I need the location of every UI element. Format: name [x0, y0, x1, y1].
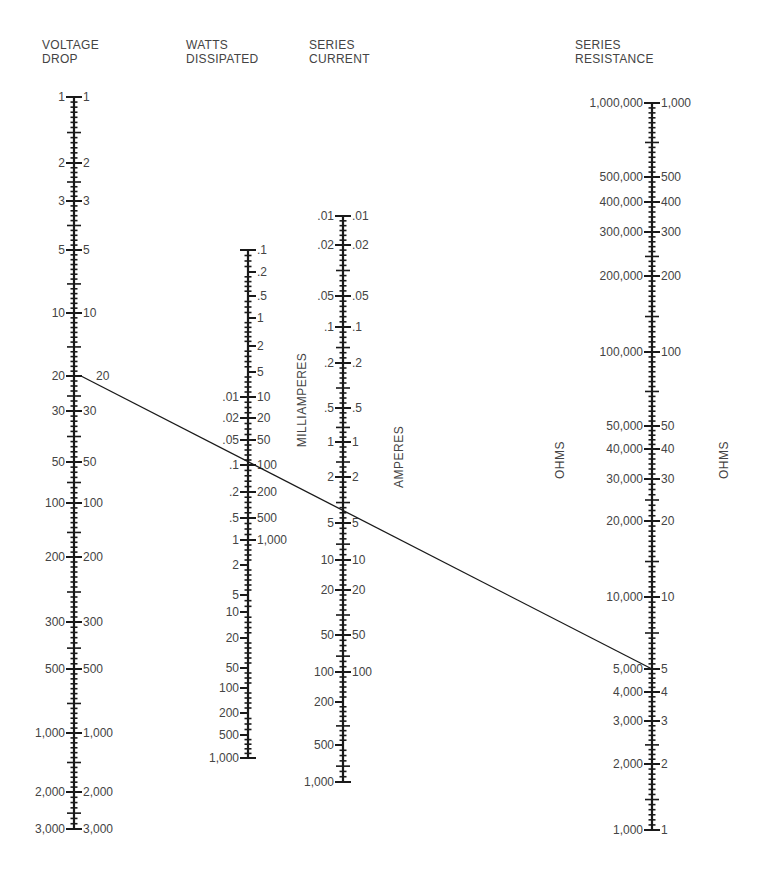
tick-label: .01	[352, 209, 369, 223]
tick-label: 50	[321, 628, 335, 642]
tick-label: 100	[45, 496, 65, 510]
tick-label: 30	[83, 404, 97, 418]
tick-label: 1	[352, 435, 359, 449]
tick-label: 20	[352, 583, 366, 597]
tick-label: 10,000	[606, 590, 643, 604]
tick-label: 2	[327, 470, 334, 484]
tick-label: .5	[352, 401, 362, 415]
tick-label: 5	[58, 243, 65, 257]
tick-label: 50	[661, 419, 675, 433]
tick-label: 100	[257, 458, 277, 472]
tick-label: 3	[58, 194, 65, 208]
tick-label: 20	[661, 514, 675, 528]
tick-label: .5	[257, 289, 267, 303]
tick-label: 10	[321, 553, 335, 567]
tick-label: 100	[661, 345, 681, 359]
tick-label: 50	[257, 433, 271, 447]
tick-label: .02	[222, 411, 239, 425]
tick-label: 10	[661, 590, 675, 604]
tick-label: .05	[352, 289, 369, 303]
tick-label: 200	[314, 695, 334, 709]
tick-label: 20	[96, 369, 110, 383]
tick-label: 1,000	[83, 726, 113, 740]
tick-label: 1	[232, 533, 239, 547]
tick-label: 500	[219, 728, 239, 742]
tick-label: 1	[257, 311, 264, 325]
tick-label: 100	[352, 665, 372, 679]
tick-label: 100,000	[600, 345, 644, 359]
tick-label: .2	[324, 356, 334, 370]
tick-label: .01	[222, 390, 239, 404]
example-index-line	[81, 376, 652, 669]
tick-label: 500	[83, 662, 103, 676]
tick-label: 5	[257, 365, 264, 379]
tick-label: 200	[83, 550, 103, 564]
tick-label: 3	[83, 194, 90, 208]
tick-label: 30	[52, 404, 66, 418]
tick-label: 100	[314, 665, 334, 679]
tick-label: 3,000	[35, 822, 65, 836]
tick-label: 200	[661, 269, 681, 283]
tick-label: 50	[226, 661, 240, 675]
tick-label: 1,000	[209, 751, 239, 765]
tick-label: 2	[232, 558, 239, 572]
tick-label: 500	[45, 662, 65, 676]
tick-label: 1	[661, 823, 668, 837]
tick-label: 20	[257, 411, 271, 425]
tick-label: 3,000	[613, 714, 643, 728]
tick-label: 2	[58, 156, 65, 170]
tick-label: 300	[661, 225, 681, 239]
tick-label: 400,000	[600, 195, 644, 209]
tick-label: 4,000	[613, 685, 643, 699]
tick-label: 200,000	[600, 269, 644, 283]
tick-label: 4	[661, 685, 668, 699]
tick-label: 2	[257, 339, 264, 353]
tick-label: 500	[661, 170, 681, 184]
tick-label: 20	[52, 369, 66, 383]
tick-label: 1,000	[304, 775, 334, 789]
tick-label: 2,000	[83, 785, 113, 799]
tick-label: 500,000	[600, 170, 644, 184]
tick-label: 200	[219, 706, 239, 720]
tick-label: 300,000	[600, 225, 644, 239]
tick-label: .2	[229, 485, 239, 499]
tick-label: 300	[83, 615, 103, 629]
tick-label: 2	[661, 757, 668, 771]
tick-label: .1	[229, 458, 239, 472]
tick-label: 2	[83, 156, 90, 170]
tick-label: 10	[83, 306, 97, 320]
tick-label: 1	[83, 90, 90, 104]
tick-label: .5	[324, 401, 334, 415]
watts-axis: .01.02.05.1.2.51251020501002005001,000.1…	[209, 243, 287, 765]
tick-label: 40	[661, 442, 675, 456]
tick-label: 5	[232, 588, 239, 602]
tick-label: 500	[257, 511, 277, 525]
tick-label: 50	[83, 455, 97, 469]
tick-label: 5,000	[613, 662, 643, 676]
tick-label: 10	[52, 306, 66, 320]
tick-label: 1,000	[661, 96, 691, 110]
tick-label: 20	[226, 631, 240, 645]
tick-label: 2,000	[613, 757, 643, 771]
tick-label: .1	[257, 243, 267, 257]
tick-label: .05	[222, 433, 239, 447]
tick-label: 20	[321, 583, 335, 597]
tick-label: 200	[257, 485, 277, 499]
tick-label: 50	[352, 628, 366, 642]
tick-label: .02	[317, 238, 334, 252]
tick-label: 2	[352, 470, 359, 484]
tick-label: 10	[257, 390, 271, 404]
tick-label: 100	[83, 496, 103, 510]
tick-label: 20,000	[606, 514, 643, 528]
tick-label: 5	[661, 662, 668, 676]
tick-label: 40,000	[606, 442, 643, 456]
tick-label: 50,000	[606, 419, 643, 433]
tick-label: 1,000	[35, 726, 65, 740]
voltage-axis: 1235102030501002003005001,0002,0003,0001…	[35, 90, 113, 836]
tick-label: .2	[257, 265, 267, 279]
tick-label: 100	[219, 681, 239, 695]
resistance-axis: 1,000,000500,000400,000300,000200,000100…	[590, 96, 692, 837]
tick-label: 10	[226, 605, 240, 619]
tick-label: 30	[661, 472, 675, 486]
tick-label: 1	[327, 435, 334, 449]
